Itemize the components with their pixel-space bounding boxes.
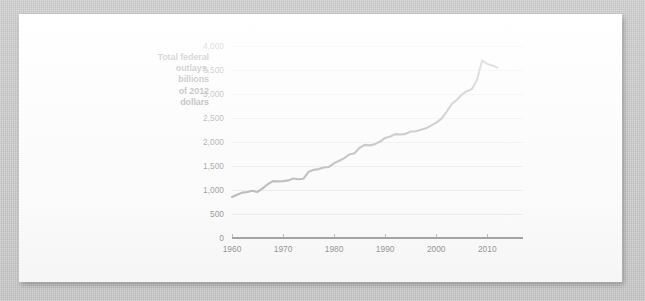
- y-tick-label: 1,500: [203, 161, 224, 171]
- chart-figure: Total federal outlays, billions of 2012 …: [19, 14, 622, 282]
- paper-card: Total federal outlays, billions of 2012 …: [19, 14, 622, 282]
- y-axis-title: Total federal outlays, billions of 2012 …: [131, 52, 209, 108]
- x-tick-label: 1970: [274, 244, 293, 254]
- y-tick-label: 2,000: [203, 137, 224, 147]
- y-tick-label: 2,500: [203, 113, 224, 123]
- y-axis-title-line-5: dollars: [131, 97, 209, 108]
- y-tick-label: 4,000: [203, 41, 224, 51]
- data-series-line: [232, 60, 497, 197]
- y-axis-title-line-2: outlays,: [131, 63, 209, 74]
- y-tick-label: 0: [219, 233, 224, 243]
- x-tick-labels-group: 196019701980199020002010: [223, 244, 497, 254]
- y-axis-title-line-4: of 2012: [131, 86, 209, 97]
- x-tick-label: 2010: [478, 244, 497, 254]
- y-axis-title-line-1: Total federal: [131, 52, 209, 63]
- y-tick-label: 1,000: [203, 185, 224, 195]
- y-axis-title-line-3: billions: [131, 74, 209, 85]
- x-tick-marks-group: [232, 234, 487, 238]
- x-tick-label: 1960: [223, 244, 242, 254]
- line-chart-plot: 05001,0001,5002,0002,5003,0003,5004,000 …: [19, 14, 622, 282]
- x-tick-label: 1990: [376, 244, 395, 254]
- x-tick-label: 1980: [325, 244, 344, 254]
- x-tick-label: 2000: [427, 244, 446, 254]
- y-tick-label: 500: [210, 209, 224, 219]
